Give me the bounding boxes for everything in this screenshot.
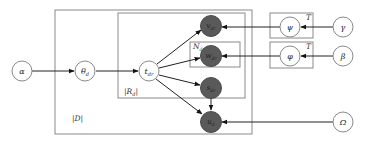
plate-documents-label: |D| — [72, 114, 83, 123]
svg-text:Ω: Ω — [339, 118, 347, 127]
node-theta: θd — [75, 61, 95, 81]
node-omega: Ω — [333, 112, 353, 132]
node-phi: φ — [280, 46, 300, 66]
svg-text:α: α — [19, 67, 25, 76]
node-s: sdr — [201, 78, 222, 99]
svg-text:φ: φ — [287, 52, 293, 61]
svg-text:β: β — [340, 52, 346, 61]
node-u: ud — [201, 112, 222, 133]
plate-topics-phi-label: T — [306, 42, 312, 51]
svg-text:γ: γ — [341, 23, 346, 32]
node-beta: β — [333, 46, 353, 66]
plate-topics-psi-label: T — [306, 13, 312, 22]
node-t: tdr — [139, 61, 159, 81]
node-v: vdr — [201, 16, 222, 37]
node-psi: ψ — [280, 17, 300, 37]
node-gamma: γ — [333, 17, 353, 37]
plate-diagram: |D| |Rd| Ndr T T α θd tdr ψ φ γ β — [0, 0, 378, 144]
edge-t-s — [159, 75, 200, 85]
plate-reviews-label: |Rd| — [124, 87, 138, 97]
node-w: wdr — [201, 46, 222, 67]
node-alpha: α — [12, 61, 32, 81]
svg-text:ψ: ψ — [287, 23, 294, 32]
